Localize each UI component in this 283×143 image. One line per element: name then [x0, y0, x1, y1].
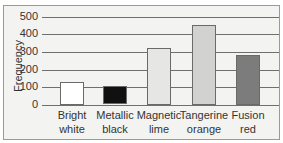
y-tick-label: 500 [10, 10, 38, 22]
x-tick-label: Magneticlime [134, 108, 184, 136]
bar [192, 25, 216, 105]
x-tick-label: Fusionred [223, 108, 273, 136]
bar [236, 55, 260, 105]
x-tick-label: Tangerineorange [179, 108, 229, 136]
y-tick-label: 0 [10, 98, 38, 110]
x-tick-label: Metallicblack [90, 108, 140, 136]
y-tick-label: 400 [10, 27, 38, 39]
gridline [42, 17, 279, 18]
bar [103, 86, 127, 104]
bar [147, 48, 171, 105]
gridline [42, 34, 279, 35]
gridline [42, 105, 279, 106]
y-tick-label: 100 [10, 80, 38, 92]
y-tick-label: 300 [10, 45, 38, 57]
y-tick-label: 200 [10, 63, 38, 75]
bar [60, 82, 84, 105]
